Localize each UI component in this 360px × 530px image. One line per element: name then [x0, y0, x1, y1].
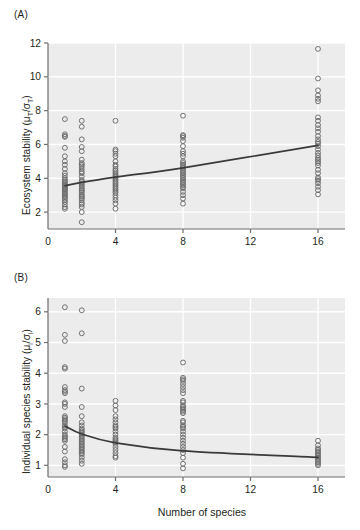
y-tick-label: 1 [35, 460, 41, 471]
panel-a-plot: 246810120481216 [0, 0, 360, 268]
y-tick-label: 2 [35, 429, 41, 440]
x-tick-label: 8 [180, 484, 186, 495]
x-tick-label: 0 [45, 236, 51, 247]
x-tick-label: 4 [113, 236, 119, 247]
y-tick-label: 10 [30, 71, 42, 82]
panel-a: (A) Ecosystem stability (μT/σT) 24681012… [0, 0, 360, 268]
plot-background [48, 43, 345, 229]
panel-b-plot: 1234560481216 [0, 268, 360, 530]
panel-b: (B) Individual species stability (μi/σi)… [0, 268, 360, 530]
y-tick-label: 8 [35, 105, 41, 116]
x-tick-label: 0 [45, 484, 51, 495]
x-axis-label: Number of species [22, 506, 360, 518]
x-tick-label: 16 [312, 236, 324, 247]
x-tick-label: 4 [113, 484, 119, 495]
x-tick-label: 8 [180, 236, 186, 247]
y-tick-label: 5 [35, 337, 41, 348]
y-tick-label: 2 [35, 207, 41, 218]
plot-background [48, 298, 345, 477]
y-tick-label: 6 [35, 139, 41, 150]
y-tick-label: 3 [35, 399, 41, 410]
x-tick-label: 12 [245, 236, 257, 247]
y-tick-label: 4 [35, 173, 41, 184]
y-tick-label: 6 [35, 306, 41, 317]
x-tick-label: 16 [312, 484, 324, 495]
y-tick-label: 12 [30, 38, 42, 49]
figure-container: (A) Ecosystem stability (μT/σT) 24681012… [0, 0, 360, 530]
x-tick-label: 12 [245, 484, 257, 495]
y-tick-label: 4 [35, 368, 41, 379]
